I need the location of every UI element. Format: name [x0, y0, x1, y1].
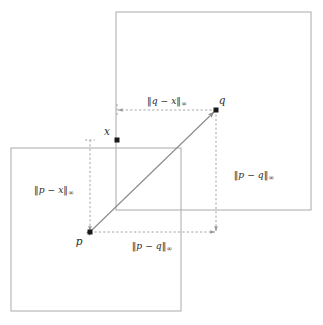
measure-label-q-minus-x: ‖q − x‖∞ [147, 95, 187, 108]
measure-label-p-minus-q-vertical: ‖p − q‖∞ [234, 169, 275, 182]
p-to-q-arrow [92, 112, 214, 230]
point-label-q: q [219, 94, 226, 106]
measure-label-p-minus-q-horizontal: ‖p − q‖∞ [132, 240, 173, 253]
point-label-x: x [104, 125, 110, 137]
lower-left-ball-square [11, 148, 181, 311]
figure-canvas: p q x ‖q − x‖∞ ‖p − q‖∞ ‖p − x‖∞ ‖p − q‖… [0, 0, 323, 325]
diagram-svg: p q x ‖q − x‖∞ ‖p − q‖∞ ‖p − x‖∞ ‖p − q‖… [0, 0, 323, 325]
point-label-p: p [76, 235, 83, 247]
point-q-marker [214, 108, 219, 113]
measure-label-p-minus-x: ‖p − x‖∞ [34, 184, 74, 197]
point-p-marker [88, 230, 93, 235]
point-x-marker [115, 138, 120, 143]
